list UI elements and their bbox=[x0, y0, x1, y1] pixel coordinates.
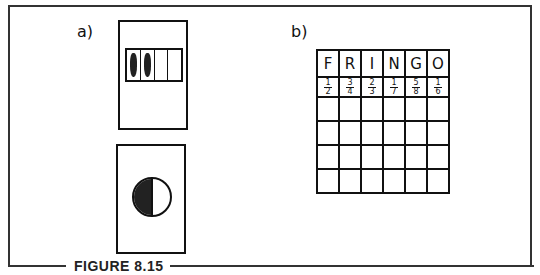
empty-cell bbox=[427, 169, 449, 193]
empty-cell bbox=[317, 169, 339, 193]
empty-cell bbox=[427, 145, 449, 169]
strip-segment-filled bbox=[141, 50, 155, 80]
empty-cell bbox=[405, 97, 427, 121]
empty-cell bbox=[383, 121, 405, 145]
strip-segment-empty bbox=[155, 50, 169, 80]
empty-cell bbox=[405, 169, 427, 193]
figure-frame bbox=[8, 5, 532, 265]
empty-cell bbox=[317, 145, 339, 169]
fraction-cell: 16 bbox=[427, 77, 449, 97]
fraction-cell: 12 bbox=[317, 77, 339, 97]
panel-b-label: b) bbox=[291, 22, 307, 41]
header-cell: G bbox=[405, 50, 427, 77]
empty-cell bbox=[405, 145, 427, 169]
fraction-cell: 58 bbox=[405, 77, 427, 97]
fraction-strip bbox=[125, 48, 183, 82]
circle-card bbox=[116, 144, 186, 254]
fraction-cell: 17 bbox=[383, 77, 405, 97]
empty-cell bbox=[317, 121, 339, 145]
header-cell: I bbox=[361, 50, 383, 77]
empty-cell bbox=[361, 97, 383, 121]
strip-segment-empty bbox=[168, 50, 181, 80]
empty-cell bbox=[361, 121, 383, 145]
empty-cell bbox=[339, 169, 361, 193]
fraction-cell: 34 bbox=[339, 77, 361, 97]
empty-cell bbox=[361, 145, 383, 169]
header-cell: N bbox=[383, 50, 405, 77]
empty-cell bbox=[383, 169, 405, 193]
strip-card bbox=[118, 20, 188, 130]
empty-row bbox=[317, 169, 449, 193]
empty-row bbox=[317, 121, 449, 145]
panel-a-label: a) bbox=[77, 22, 93, 41]
empty-cell bbox=[317, 97, 339, 121]
frame-bottom-left bbox=[8, 265, 66, 267]
figure-caption: FIGURE 8.15 bbox=[68, 258, 170, 274]
fringo-card: F R I N G O 12 34 23 17 58 16 bbox=[316, 49, 450, 194]
empty-cell bbox=[339, 121, 361, 145]
header-cell: O bbox=[427, 50, 449, 77]
empty-cell bbox=[427, 121, 449, 145]
empty-cell bbox=[405, 121, 427, 145]
empty-cell bbox=[361, 169, 383, 193]
empty-cell bbox=[383, 145, 405, 169]
fraction-row: 12 34 23 17 58 16 bbox=[317, 77, 449, 97]
header-cell: F bbox=[317, 50, 339, 77]
header-row: F R I N G O bbox=[317, 50, 449, 77]
half-circle-icon bbox=[118, 146, 184, 252]
empty-row bbox=[317, 97, 449, 121]
empty-cell bbox=[339, 97, 361, 121]
empty-cell bbox=[339, 145, 361, 169]
empty-row bbox=[317, 145, 449, 169]
empty-cell bbox=[383, 97, 405, 121]
header-cell: R bbox=[339, 50, 361, 77]
empty-cell bbox=[427, 97, 449, 121]
fraction-cell: 23 bbox=[361, 77, 383, 97]
frame-bottom-right bbox=[165, 265, 534, 267]
strip-segment-filled bbox=[127, 50, 141, 80]
